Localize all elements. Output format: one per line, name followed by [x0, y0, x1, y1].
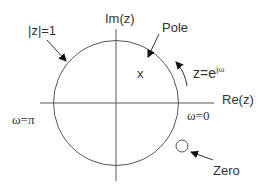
rotation-arrow-icon [176, 62, 187, 86]
zero-label: Zero [213, 163, 240, 178]
unit-circle-arrow-icon [47, 40, 66, 61]
zero-marker-icon [176, 140, 188, 152]
rotation-label: z=ejω [193, 64, 224, 81]
real-axis-label: Re(z) [222, 92, 254, 107]
omega-zero-label: ω=0 [187, 108, 209, 123]
rotation-label-base: z=e [193, 65, 216, 81]
unit-circle-label: |z|=1 [28, 23, 56, 38]
omega-pi-label: ω=π [12, 112, 35, 127]
imag-axis-label: Im(z) [105, 11, 135, 26]
pole-label: Pole [162, 20, 188, 35]
rotation-label-exponent: jω [215, 64, 225, 74]
zero-arrow-icon [191, 152, 213, 160]
z-plane-diagram: |z|=1 Im(z) Pole x z=ejω Re(z) ω=π ω=0 Z… [0, 0, 268, 189]
pole-marker-icon: x [137, 66, 144, 81]
